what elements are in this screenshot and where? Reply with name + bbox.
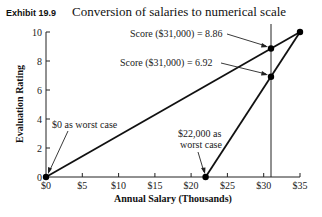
series-line-22k-worst [206,32,300,177]
data-point-35k [297,29,303,35]
x-tick-label: $15 [147,180,162,191]
data-point-origin [43,174,49,180]
y-tick-label: 10 [32,27,42,38]
arrowhead-icon [201,168,206,175]
annotation-22k-worst-case-line1: $22,000 as [178,128,221,139]
y-tick-label: 4 [37,114,42,125]
x-tick-label: $5 [77,180,87,191]
data-point-score-886 [268,45,274,51]
annotation-arrow [227,34,266,46]
y-tick-label: 8 [37,56,42,67]
series-line-0-worst [46,32,300,177]
y-axis-title: Evaluation Rating [14,65,25,143]
annotation-0-worst-case: $0 as worst case [52,119,118,130]
x-tick-label: $30 [256,180,271,191]
data-point-score-692 [268,74,274,80]
arrowhead-icon [261,71,268,76]
y-axis [46,32,50,177]
x-axis [46,173,300,177]
x-tick-label: $10 [111,180,126,191]
x-tick-label: $0 [41,180,51,191]
y-tick-label: 6 [37,85,42,96]
data-point-22k [202,174,208,180]
y-tick-label: 2 [37,143,42,154]
x-tick-label: $35 [293,180,308,191]
x-axis-title: Annual Salary (Thousands) [114,193,232,205]
x-tick-label: $25 [220,180,235,191]
x-tick-label: $20 [184,180,199,191]
annotation-22k-worst-case-line2: worst case [180,139,222,150]
annotation-score-886: Score ($31,000) = 8.86 [130,28,223,40]
annotation-score-692: Score ($31,000) = 6.92 [120,57,213,69]
arrowhead-icon [261,43,268,48]
chart-canvas: 0 2 4 6 8 10 $0 $5 $10 $15 $20 $25 $30 $… [0,0,322,217]
